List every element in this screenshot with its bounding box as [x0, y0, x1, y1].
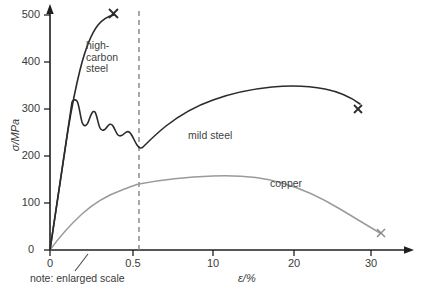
- y-tick-label-500: 500: [22, 8, 40, 20]
- x-tick-label-30: 30: [365, 257, 377, 269]
- y-tick-label-0: 0: [28, 243, 34, 255]
- curve-mild-steel: [50, 86, 360, 250]
- label-mild-steel: mild steel: [188, 130, 232, 142]
- label-high-carbon-steel: high- carbon steel: [86, 40, 118, 75]
- y-axis-title-wrapper: σ/MPa: [5, 105, 23, 165]
- x-tick-label-0: 0: [47, 257, 53, 269]
- curve-copper: [50, 176, 380, 250]
- y-tick-label-100: 100: [22, 196, 40, 208]
- y-tick-label-300: 300: [22, 102, 40, 114]
- x-axis: [50, 246, 414, 253]
- note-leader-line: [75, 254, 88, 271]
- x-axis-ticks: [50, 250, 371, 256]
- label-copper: copper: [270, 178, 302, 190]
- stress-strain-figure: 0 100 200 300 400 500 0 0.5 10 20 30 σ/M…: [0, 0, 423, 291]
- y-axis-title: σ/MPa: [9, 119, 21, 151]
- x-tick-label-10: 10: [207, 257, 219, 269]
- chart-canvas: [0, 0, 423, 291]
- high-carbon-steel-failure-marker: [109, 9, 118, 18]
- mild-steel-failure-marker: [354, 105, 362, 113]
- y-tick-label-400: 400: [22, 55, 40, 67]
- y-axis: [46, 4, 53, 250]
- x-tick-label-20: 20: [288, 257, 300, 269]
- x-tick-label-0p5: 0.5: [125, 257, 140, 269]
- enlarged-scale-note: note: enlarged scale: [30, 272, 125, 284]
- y-axis-ticks: [44, 15, 50, 250]
- copper-failure-marker: [377, 229, 385, 237]
- y-tick-label-200: 200: [22, 149, 40, 161]
- x-axis-title: ε/%: [238, 272, 256, 284]
